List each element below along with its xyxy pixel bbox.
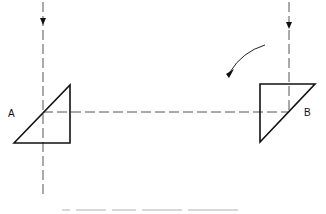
arrow-down-icon-b — [286, 22, 292, 29]
prism-a — [14, 85, 70, 143]
label-a: A — [8, 108, 15, 119]
figure-caption — [62, 200, 262, 208]
label-b: B — [304, 107, 311, 118]
arrow-down-icon-a — [40, 18, 46, 25]
prism-diagram: A B — [0, 0, 326, 214]
rotation-arrow-icon — [230, 45, 265, 72]
rotation-arrowhead-icon — [226, 69, 234, 78]
